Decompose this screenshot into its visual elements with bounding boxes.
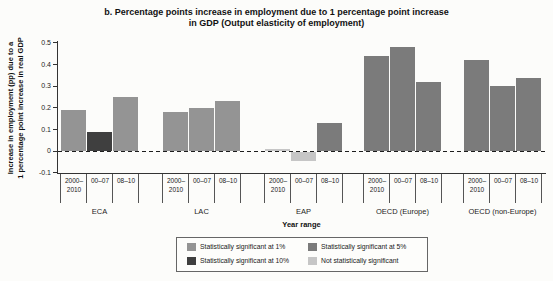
y-tick-label: -0.1 xyxy=(30,169,51,177)
y-tick-mark xyxy=(53,86,57,87)
legend-label-sig-5pct: Statistically significant at 5% xyxy=(321,242,406,251)
y-tick-mark xyxy=(53,42,57,43)
x-tick-label: 00–07 xyxy=(390,176,416,185)
y-tick-label: 0.2 xyxy=(30,104,51,112)
legend-item-sig-10pct: Statistically significant at 10% xyxy=(187,256,289,265)
group-label-lac: LAC xyxy=(150,207,253,216)
x-tick-label: 08–10 xyxy=(113,176,139,185)
bar-oecd-non-europe-00-07 xyxy=(490,86,515,151)
y-axis-line xyxy=(57,41,58,173)
y-tick-label: 0.1 xyxy=(30,126,51,134)
figure-panel-b: b. Percentage points increase in employm… xyxy=(0,0,553,281)
y-tick-mark xyxy=(53,64,57,65)
bar-eap-00-07 xyxy=(291,152,316,161)
x-tick-label: 2000–2010 xyxy=(61,176,87,194)
group-label-oecd-non-europe: OECD (non-Europe) xyxy=(451,207,553,216)
x-tick-label: 08–10 xyxy=(317,176,343,185)
legend-label-not-significant: Not statistically significant xyxy=(321,256,398,265)
x-tick-label: 2000–2010 xyxy=(364,176,390,194)
legend-swatch-sig-5pct-icon xyxy=(308,243,317,251)
x-tick-label: 00–07 xyxy=(291,176,317,185)
legend-label-sig-10pct: Statistically significant at 10% xyxy=(200,256,289,265)
y-tick-label: 0.4 xyxy=(30,61,51,69)
legend-box: Statistically significant at 1% Statisti… xyxy=(176,237,428,272)
legend-swatch-not-significant-icon xyxy=(308,257,317,265)
group-label-eap: EAP xyxy=(252,207,355,216)
x-tick-label: 08–10 xyxy=(416,176,442,185)
bar-oecd-non-europe-2000-2010 xyxy=(464,60,489,151)
y-tick-mark xyxy=(53,151,57,152)
y-tick-mark xyxy=(53,107,57,108)
bar-oecd-europe-00-07 xyxy=(390,47,415,151)
bar-eca-00-07 xyxy=(87,132,112,152)
bar-oecd-non-europe-08-10 xyxy=(516,78,541,152)
x-tick-label: 00–07 xyxy=(490,176,516,185)
legend-item-not-significant: Not statistically significant xyxy=(308,256,398,265)
bar-oecd-europe-2000-2010 xyxy=(364,56,389,151)
x-tick-label: 2000–2010 xyxy=(265,176,291,194)
x-tick-label: 08–10 xyxy=(215,176,241,185)
bar-eca-08-10 xyxy=(113,97,138,151)
legend-swatch-sig-1pct-icon xyxy=(187,243,196,251)
x-tick-label: 08–10 xyxy=(516,176,542,185)
group-label-eca: ECA xyxy=(48,207,151,216)
legend-item-sig-1pct: Statistically significant at 1% xyxy=(187,242,285,251)
x-tick-label: 00–07 xyxy=(189,176,215,185)
bar-eca-2000-2010 xyxy=(61,110,86,151)
legend-item-sig-5pct: Statistically significant at 5% xyxy=(308,242,406,251)
y-tick-label: 0.3 xyxy=(30,82,51,90)
y-tick-label: 0.5 xyxy=(30,39,51,47)
y-tick-mark xyxy=(53,129,57,130)
x-tick-label: 2000–2010 xyxy=(163,176,189,194)
x-axis-line xyxy=(57,173,546,174)
x-tick-label: 00–07 xyxy=(87,176,113,185)
legend-swatch-sig-10pct-icon xyxy=(187,257,196,265)
x-tick-label: 2000–2010 xyxy=(464,176,490,194)
y-tick-mark xyxy=(53,172,57,173)
bar-oecd-europe-08-10 xyxy=(416,82,441,151)
bar-eap-08-10 xyxy=(317,123,342,151)
bar-lac-08-10 xyxy=(215,101,240,151)
y-tick-label: 0 xyxy=(30,147,51,155)
legend-label-sig-1pct: Statistically significant at 1% xyxy=(200,242,285,251)
zero-dashed-line xyxy=(58,151,548,152)
group-label-oecd-europe: OECD (Europe) xyxy=(351,207,454,216)
bar-lac-2000-2010 xyxy=(163,112,188,151)
x-axis-title: Year range xyxy=(57,220,546,229)
bar-lac-00-07 xyxy=(189,108,214,151)
